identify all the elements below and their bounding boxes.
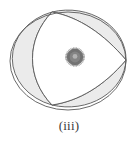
figure-caption: (iii) xyxy=(0,118,138,134)
geometric-diagram xyxy=(0,0,138,120)
figure-container: (iii) xyxy=(0,0,138,146)
center-dot-highlight xyxy=(73,54,78,59)
